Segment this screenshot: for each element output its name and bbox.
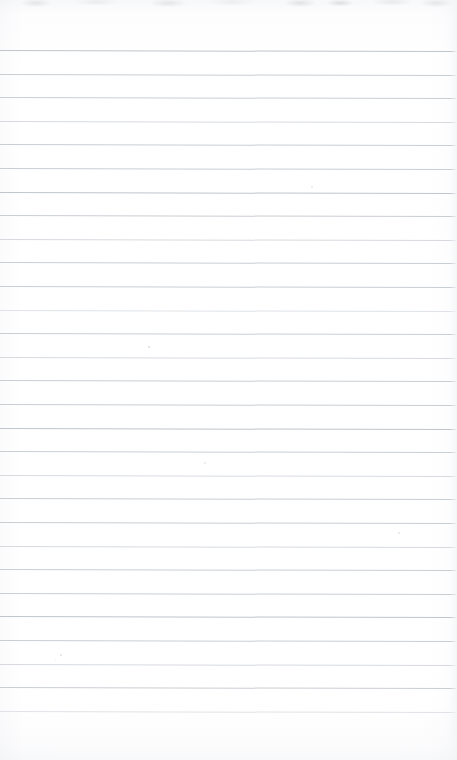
paper-surface [0, 0, 457, 760]
scanned-page [0, 0, 457, 760]
